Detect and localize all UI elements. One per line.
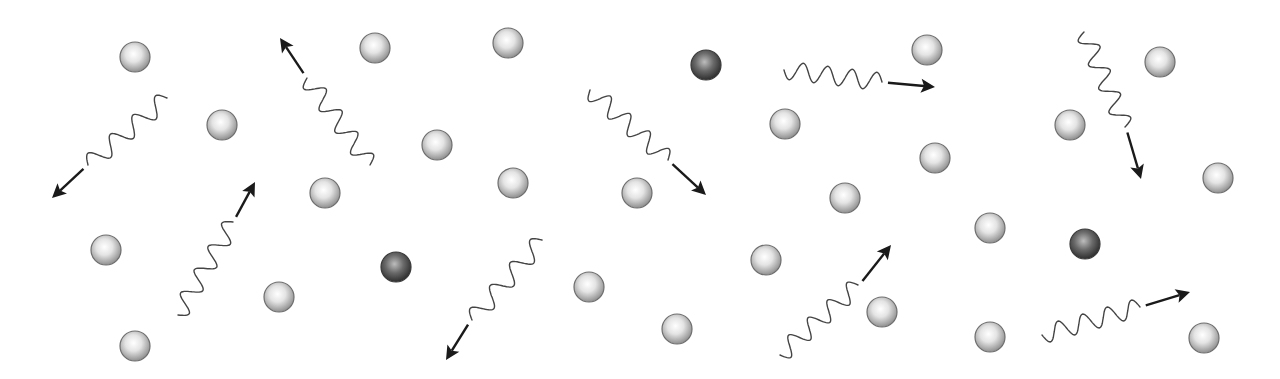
arrow-shaft [286, 47, 303, 73]
light-particle-icon [830, 183, 860, 213]
light-particle-icon [310, 178, 340, 208]
photon-wave-icon [1042, 300, 1140, 342]
light-particle-icon [920, 143, 950, 173]
light-particle-icon [360, 33, 390, 63]
photon-wave-icon [303, 78, 374, 165]
arrow-shaft [888, 83, 924, 86]
photon [446, 239, 542, 360]
photon-wave-icon [780, 282, 858, 358]
particles-layer [91, 28, 1233, 361]
light-particle-icon [422, 130, 452, 160]
particle-photon-diagram [0, 0, 1280, 379]
arrow-shaft [452, 325, 468, 351]
photon-wave-icon [87, 95, 167, 165]
light-particle-icon [493, 28, 523, 58]
photons-layer [52, 32, 1190, 360]
photon [784, 63, 935, 92]
arrow-shaft [862, 254, 884, 281]
light-particle-icon [120, 42, 150, 72]
arrow-shaft [1146, 295, 1180, 305]
light-particle-icon [498, 168, 528, 198]
photon [1042, 289, 1190, 342]
photon-wave-icon [178, 222, 233, 316]
photon [52, 95, 167, 198]
arrow-head-icon [877, 245, 891, 260]
photon-wave-icon [470, 239, 543, 320]
light-particle-icon [207, 110, 237, 140]
light-particle-icon [770, 109, 800, 139]
dark-particle-icon [381, 252, 411, 282]
light-particle-icon [264, 282, 294, 312]
dark-particle-icon [1070, 229, 1100, 259]
photon [588, 90, 706, 195]
arrow-shaft [236, 192, 250, 217]
light-particle-icon [662, 314, 692, 344]
light-particle-icon [1145, 47, 1175, 77]
photon-wave-icon [784, 63, 882, 88]
light-particle-icon [622, 178, 652, 208]
light-particle-icon [751, 245, 781, 275]
photon-wave-icon [1078, 32, 1131, 127]
photon [1078, 32, 1144, 179]
light-particle-icon [1189, 323, 1219, 353]
light-particle-icon [1203, 163, 1233, 193]
arrow-shaft [60, 169, 83, 191]
arrow-shaft [672, 164, 697, 188]
light-particle-icon [975, 213, 1005, 243]
arrow-head-icon [446, 344, 459, 360]
light-particle-icon [912, 35, 942, 65]
light-particle-icon [574, 272, 604, 302]
photon [178, 182, 255, 315]
photon-wave-icon [588, 90, 670, 160]
diagram-canvas [0, 0, 1280, 379]
light-particle-icon [91, 235, 121, 265]
light-particle-icon [867, 297, 897, 327]
arrow-shaft [1127, 133, 1138, 169]
arrow-head-icon [280, 38, 294, 54]
light-particle-icon [120, 331, 150, 361]
light-particle-icon [975, 322, 1005, 352]
photon [280, 38, 374, 165]
dark-particle-icon [691, 50, 721, 80]
light-particle-icon [1055, 110, 1085, 140]
